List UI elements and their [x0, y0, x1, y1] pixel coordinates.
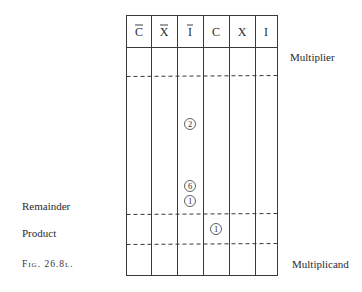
remainder-label: Remainder	[22, 200, 70, 212]
product-label: Product	[22, 227, 56, 239]
multiplier-divider	[127, 76, 278, 77]
multiplier-label: Multiplier	[290, 51, 335, 63]
svg-text:1: 1	[188, 196, 192, 206]
product-divider	[127, 244, 278, 245]
column-header-x-bar: X	[160, 25, 169, 39]
column-header-x: X	[238, 25, 247, 39]
table-grid: C X I C X I 2 6 1	[0, 0, 362, 292]
svg-text:1: 1	[214, 224, 218, 234]
remainder-divider	[127, 214, 278, 215]
figure-caption: Fig. 26.8l.	[22, 259, 74, 269]
svg-text:6: 6	[188, 181, 192, 191]
circled-marker-1-remainder: 1	[185, 196, 196, 207]
column-dividers	[152, 16, 256, 276]
svg-text:2: 2	[188, 119, 192, 129]
circled-marker-1-product: 1	[211, 224, 222, 235]
column-header-i-bar: I	[188, 25, 192, 39]
column-header-c: C	[212, 25, 220, 39]
table-border	[127, 16, 278, 276]
circled-marker-2: 2	[185, 119, 196, 130]
dashed-dividers	[127, 76, 278, 245]
column-header-i: I	[264, 25, 268, 39]
column-header-c-bar: C	[135, 25, 143, 39]
multiplicand-label: Multiplicand	[292, 258, 349, 270]
circled-marker-6: 6	[185, 181, 196, 192]
multiplication-table-figure: C X I C X I 2 6 1	[0, 0, 362, 292]
